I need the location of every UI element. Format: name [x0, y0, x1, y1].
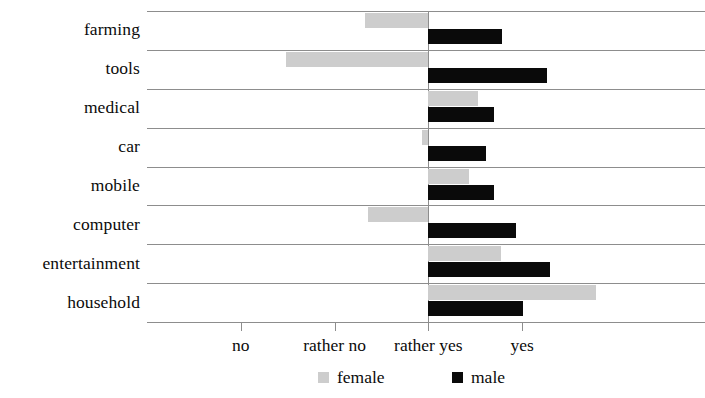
bar-female-mobile: [428, 169, 468, 184]
gridline: [147, 244, 705, 245]
x-tick: [241, 322, 242, 331]
chart-legend: femalemale: [0, 369, 705, 397]
legend-item-male[interactable]: male: [452, 369, 505, 387]
x-tick-label-rather-yes: rather yes: [394, 337, 463, 355]
category-label-tools: tools: [0, 60, 140, 78]
legend-item-female[interactable]: female: [318, 369, 385, 387]
bar-female-medical: [428, 91, 478, 106]
category-label-mobile: mobile: [0, 177, 140, 195]
bar-male-household: [428, 301, 523, 316]
x-tick: [522, 322, 523, 331]
x-tick-label-rather-no: rather no: [303, 337, 366, 355]
bar-male-entertainment: [428, 262, 550, 277]
bar-female-household: [428, 285, 596, 300]
category-label-computer: computer: [0, 216, 140, 234]
category-label-car: car: [0, 138, 140, 156]
gridline: [147, 11, 705, 12]
bar-male-mobile: [428, 185, 494, 200]
bar-male-tools: [428, 68, 546, 83]
bar-female-car: [422, 130, 429, 145]
x-tick-label-no: no: [232, 337, 250, 355]
x-axis-line: [147, 322, 705, 323]
bar-male-farming: [428, 29, 502, 44]
gridline: [147, 89, 705, 90]
male-color-swatch: [452, 372, 463, 383]
bar-male-medical: [428, 107, 494, 122]
category-label-household: household: [0, 294, 140, 312]
category-label-entertainment: entertainment: [0, 255, 140, 273]
gridline: [147, 167, 705, 168]
horizontal-diverging-bar-chart: farmingtoolsmedicalcarmobilecomputerente…: [0, 0, 705, 398]
legend-label: female: [337, 369, 385, 387]
gridline: [147, 283, 705, 284]
category-axis-labels: farmingtoolsmedicalcarmobilecomputerente…: [0, 11, 140, 322]
bar-female-tools: [286, 52, 429, 67]
x-tick: [335, 322, 336, 331]
gridline: [147, 205, 705, 206]
plot-area: [147, 11, 705, 322]
x-tick-label-yes: yes: [510, 337, 533, 355]
legend-label: male: [471, 369, 505, 387]
bar-female-entertainment: [428, 246, 500, 261]
bar-male-car: [428, 146, 485, 161]
x-tick: [428, 322, 429, 331]
category-label-farming: farming: [0, 21, 140, 39]
category-label-medical: medical: [0, 99, 140, 117]
bar-female-farming: [365, 13, 429, 28]
bar-female-computer: [368, 207, 428, 222]
gridline: [147, 50, 705, 51]
bar-male-computer: [428, 223, 516, 238]
female-color-swatch: [318, 372, 329, 383]
